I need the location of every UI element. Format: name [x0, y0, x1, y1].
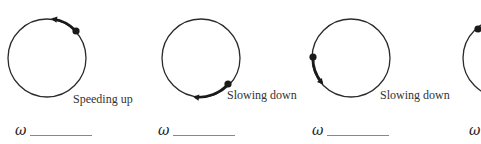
circle-path: [312, 19, 390, 97]
particle-dot: [72, 27, 79, 34]
particle-dot: [474, 25, 481, 32]
arrowhead-icon: [193, 94, 199, 100]
particle-dot: [224, 80, 231, 87]
particle-dot: [309, 53, 316, 60]
circles-figure: [0, 0, 481, 144]
